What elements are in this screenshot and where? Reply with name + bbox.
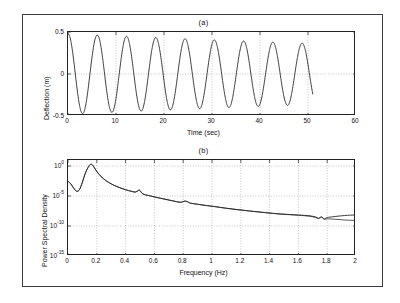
panel-b-xlabel: Frequency (Hz) — [23, 269, 384, 276]
panel-a-xtick: 10 — [111, 117, 118, 124]
panel-b-xtick: 0.6 — [149, 257, 158, 264]
panel-b-trace-2 — [68, 164, 355, 220]
panel-a-xtick: 20 — [159, 117, 166, 124]
panel-a-ytick: 0 — [37, 70, 64, 77]
panel-b: (b) Power Spectral Density Frequency (Hz… — [23, 145, 384, 288]
panel-b-xtick: 2 — [353, 257, 357, 264]
panel-a-xtick: 0 — [65, 117, 69, 124]
panel-b-ytick: 10-10 — [31, 222, 64, 229]
panel-a-xtick: 60 — [351, 117, 358, 124]
panel-a-ytick: -0.5 — [37, 112, 64, 119]
panel-a-xtick: 50 — [303, 117, 310, 124]
panel-a-xtick: 30 — [207, 117, 214, 124]
panel-b-ytick: 10-15 — [31, 252, 64, 259]
panel-b-title: (b) — [23, 146, 384, 155]
panel-a: (a) Deflection (m) Time (sec) 0102030405… — [23, 15, 384, 145]
figure-frame: (a) Deflection (m) Time (sec) 0102030405… — [22, 14, 383, 287]
panel-b-xtick: 1.2 — [235, 257, 244, 264]
panel-a-xlabel: Time (sec) — [23, 129, 384, 136]
panel-a-xtick: 40 — [255, 117, 262, 124]
panel-b-ytick: 10-5 — [31, 192, 64, 199]
panel-b-plot — [67, 159, 355, 255]
panel-b-xtick: 0.2 — [91, 257, 100, 264]
panel-b-ytick: 100 — [31, 162, 64, 169]
panel-a-trace — [68, 34, 313, 114]
panel-b-xtick: 1.8 — [322, 257, 331, 264]
panel-a-title: (a) — [23, 18, 384, 27]
panel-b-xtick: 1.4 — [264, 257, 273, 264]
panel-b-xtick: 0 — [65, 257, 69, 264]
panel-b-canvas — [68, 160, 355, 255]
panel-a-canvas — [68, 32, 355, 115]
panel-b-xtick: 1 — [209, 257, 213, 264]
panel-b-xtick: 1.6 — [293, 257, 302, 264]
panel-b-xtick: 0.4 — [120, 257, 129, 264]
panel-a-plot — [67, 31, 355, 115]
panel-b-xtick: 0.8 — [178, 257, 187, 264]
panel-a-ytick: 0.5 — [37, 28, 64, 35]
panel-b-trace-1 — [68, 164, 355, 219]
